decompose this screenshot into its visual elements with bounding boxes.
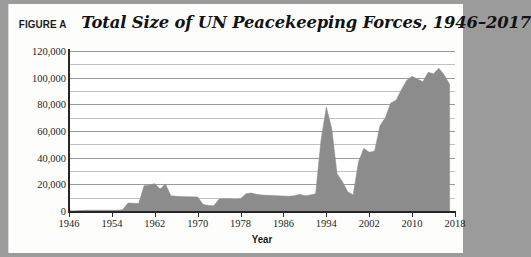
x-axis-tick-label: 1962	[144, 218, 165, 229]
x-axis-tick-mark	[455, 213, 456, 217]
x-axis-tick-label: 1970	[187, 218, 208, 229]
y-axis-tick-label: 20,000	[18, 179, 66, 190]
page-title: Total Size of UN Peacekeeping Forces, 19…	[81, 13, 531, 32]
x-axis-tick-label: 2010	[402, 218, 423, 229]
x-axis-line	[68, 211, 456, 213]
area-series	[69, 51, 455, 211]
figure-card: FIGURE A Total Size of UN Peacekeeping F…	[8, 4, 463, 253]
x-axis-tick-label: 1946	[59, 218, 80, 229]
x-axis-tick-label: 1978	[230, 218, 251, 229]
y-axis-tick-label: 0	[18, 206, 66, 217]
x-axis-tick-mark	[283, 213, 284, 217]
x-axis-tick-mark	[198, 213, 199, 217]
x-axis-tick-label: 2002	[359, 218, 380, 229]
y-axis-line	[68, 49, 70, 213]
x-axis-tick-mark	[412, 213, 413, 217]
figure-header: FIGURE A Total Size of UN Peacekeeping F…	[15, 13, 463, 39]
x-axis-tick-mark	[112, 213, 113, 217]
x-axis-tick-mark	[155, 213, 156, 217]
chart-container: 020,00040,00060,00080,000100,000120,000 …	[16, 42, 463, 248]
y-axis-tick-label: 60,000	[18, 126, 66, 137]
y-axis-tick-label: 120,000	[18, 46, 66, 57]
y-axis-tick-label: 100,000	[18, 72, 66, 83]
x-axis-tick-label: 2018	[445, 218, 466, 229]
x-axis-tick-mark	[326, 213, 327, 217]
x-axis-tick-label: 1994	[316, 218, 337, 229]
x-axis-tick-mark	[241, 213, 242, 217]
figure-label: FIGURE A	[19, 18, 67, 30]
y-axis-tick-label: 80,000	[18, 99, 66, 110]
y-axis-tick-label: 40,000	[18, 152, 66, 163]
plot-area	[69, 51, 455, 211]
x-axis-tick-mark	[69, 213, 70, 217]
x-axis-tick-mark	[369, 213, 370, 217]
x-axis-tick-label: 1954	[101, 218, 122, 229]
x-axis-tick-label: 1986	[273, 218, 294, 229]
x-axis-title: Year	[84, 233, 439, 245]
